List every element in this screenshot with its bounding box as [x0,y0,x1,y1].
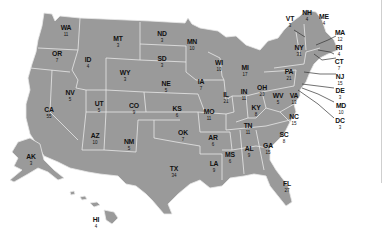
state-label-va: VA13 [289,92,299,105]
electoral-votes: 3 [156,39,167,44]
state-abbr: MD [336,102,346,110]
electoral-votes: 27 [282,189,291,194]
state-label-ri: RI4 [335,44,343,57]
state-abbr: MI [241,64,248,72]
state-abbr: AR [208,134,217,142]
state-label-sc: SC8 [279,131,290,144]
electoral-votes: 5 [272,101,285,106]
state-abbr: DC [335,117,344,125]
electoral-votes: 11 [203,117,216,122]
state-abbr: NC [289,113,298,121]
state-abbr: WY [120,69,131,77]
electoral-votes: 3 [157,64,168,69]
state-label-oh: OH20 [256,84,268,97]
electoral-votes: 6 [172,114,183,119]
state-label-fl: FL27 [282,180,291,193]
electoral-votes: 9 [209,169,219,174]
state-abbr: NH [302,9,311,17]
electoral-votes: 10 [335,111,347,116]
state-label-nj: NJ15 [335,73,345,86]
state-label-ms: MS6 [224,151,236,164]
state-abbr: ND [157,30,166,38]
state-abbr: NY [294,44,303,52]
state-label-tn: TN11 [243,122,253,135]
state-abbr: MA [335,29,345,37]
electoral-votes: 6 [224,160,236,165]
state-label-la: LA9 [209,160,219,173]
electoral-votes: 3 [334,126,345,131]
state-abbr: NJ [336,73,344,81]
state-label-co: CO9 [128,102,140,115]
state-abbr: WI [215,59,223,67]
electoral-votes: 11 [240,97,248,102]
state-label-ak: AK3 [25,153,36,166]
electoral-votes: 17 [241,73,250,78]
state-label-md: MD10 [335,102,347,115]
state-label-al: AL9 [244,145,254,158]
state-label-ca: CA55 [43,106,54,119]
state-abbr: VT [286,15,294,23]
state-label-ks: KS6 [172,105,183,118]
state-label-ok: OK7 [177,129,189,142]
state-abbr: SC [279,131,288,139]
electoral-votes: 5 [123,147,135,152]
state-abbr: IL [223,91,229,99]
state-abbr: WV [273,92,284,100]
state-label-ky: KY8 [251,104,262,117]
state-label-dc: DC3 [334,117,345,130]
electoral-votes: 7 [334,67,344,72]
electoral-votes: 7 [177,138,189,143]
state-label-wa: WA11 [60,24,73,37]
electoral-votes: 3 [335,96,346,101]
electoral-votes: 3 [119,78,132,83]
state-abbr: KY [251,104,260,112]
electoral-votes: 8 [251,113,262,118]
state-abbr: OK [178,129,188,137]
state-abbr: MN [187,38,197,46]
state-abbr: UT [95,100,104,108]
electoral-votes: 15 [288,122,299,127]
state-abbr: LA [210,160,219,168]
state-label-mn: MN10 [186,38,198,51]
state-label-in: IN11 [240,88,248,101]
state-abbr: AL [245,145,254,153]
state-abbr: AK [26,153,35,161]
state-label-ia: IA7 [197,78,205,91]
state-abbr: KS [172,105,181,113]
state-label-mi: MI17 [241,64,250,77]
state-label-ga: GA15 [262,142,274,155]
state-abbr: IN [241,88,247,96]
state-abbr: TN [244,122,253,130]
electoral-votes: 6 [207,143,218,148]
state-abbr: RI [336,44,342,52]
state-abbr: OR [52,50,62,58]
electoral-votes: 5 [94,109,104,114]
state-label-me: ME4 [318,13,330,26]
electoral-votes: 9 [128,111,140,116]
state-abbr: NM [124,138,134,146]
state-label-ut: UT5 [94,100,104,113]
state-abbr: CO [129,102,139,110]
state-label-wy: WY3 [119,69,132,82]
state-label-sd: SD3 [157,55,168,68]
state-abbr: MS [225,151,235,159]
state-label-nh: NH4 [301,9,312,22]
electoral-votes: 11 [60,33,73,38]
state-abbr: GA [263,142,273,150]
state-abbr: FL [283,180,291,188]
electoral-votes: 4 [84,65,92,70]
state-abbr: HI [93,216,99,224]
state-label-or: OR7 [51,50,63,63]
state-label-ny: NY31 [294,44,305,57]
state-label-mo: MO11 [203,108,216,121]
electoral-votes: 55 [43,115,54,120]
electoral-votes: 3 [25,162,36,167]
electoral-votes: 4 [301,18,312,23]
electoral-votes: 4 [92,225,100,230]
state-label-wv: WV5 [272,92,285,105]
electoral-votes: 8 [279,140,290,145]
state-abbr: VA [290,92,299,100]
electoral-votes: 21 [284,77,294,82]
state-label-ne: NE5 [161,80,172,93]
state-abbr: NE [161,80,170,88]
